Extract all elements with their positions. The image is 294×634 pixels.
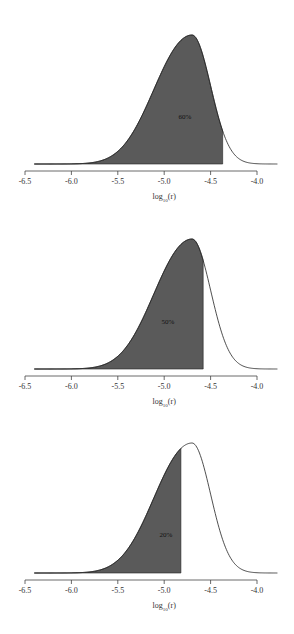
shaded-area bbox=[34, 448, 181, 573]
x-tick-label: -4.5 bbox=[204, 586, 217, 595]
percentage-annotation: 20% bbox=[160, 531, 173, 539]
x-tick-label: -5.5 bbox=[111, 586, 124, 595]
density-plot bbox=[0, 0, 294, 634]
x-axis-label: log10(r) bbox=[153, 601, 176, 612]
x-tick-label: -6.0 bbox=[65, 586, 78, 595]
x-tick-label: -4.0 bbox=[251, 586, 264, 595]
density-panel-3: -6.5-6.0-5.5-5.0-4.5-4.0log10(r)20% bbox=[0, 0, 294, 634]
x-tick-label: -6.5 bbox=[19, 586, 32, 595]
x-tick-label: -5.0 bbox=[158, 586, 171, 595]
